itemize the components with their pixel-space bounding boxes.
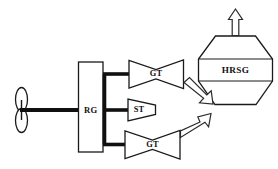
propulsion-plant-diagram: RG GT ST GT [0,0,278,169]
plant-schematic-canvas: RG GT ST GT [0,0,278,169]
stack-arrow-shape [229,9,243,36]
exhaust-stack-arrow [229,9,243,36]
gas-turbine-lower: GT [125,131,180,160]
exhaust-duct-lower-arrow [181,114,212,138]
gas-turbine-upper: GT [129,60,184,89]
steam-turbine-label: ST [134,105,145,114]
reduction-gear: RG [79,62,104,152]
reduction-gear-label: RG [84,105,98,115]
gas-turbine-lower-label: GT [146,140,159,149]
gas-turbine-upper-label: GT [150,69,163,78]
steam-turbine: ST [128,99,156,121]
exhaust-duct-lower [181,114,212,138]
hrsg-label: HRSG [222,65,250,75]
